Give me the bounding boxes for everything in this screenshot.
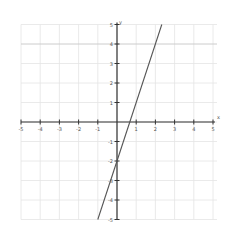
y-tick-label: 2 xyxy=(110,80,113,86)
x-tick-label: -4 xyxy=(38,126,43,132)
x-tick-label: -2 xyxy=(76,126,81,132)
x-tick-label: -1 xyxy=(95,126,100,132)
y-tick-label: -3 xyxy=(108,178,113,184)
y-tick-label: -2 xyxy=(108,158,113,164)
x-tick-label: 1 xyxy=(135,126,138,132)
x-tick-label: 5 xyxy=(211,126,214,132)
y-tick-label: -1 xyxy=(108,139,113,145)
y-tick-label: 1 xyxy=(110,100,113,106)
y-tick-label: 3 xyxy=(110,61,113,67)
tick-labels: xy-5-4-3-2-11234554321-1-2-3-4-5 xyxy=(19,19,221,223)
y-tick-label: -4 xyxy=(108,197,113,203)
x-tick-label: 3 xyxy=(173,126,176,132)
y-tick-label: 5 xyxy=(110,22,113,28)
y-tick-label: 4 xyxy=(110,41,113,47)
x-tick-label: 4 xyxy=(192,126,195,132)
x-tick-label: -5 xyxy=(19,126,24,132)
y-axis-label: y xyxy=(119,19,122,26)
axes xyxy=(21,23,215,220)
x-tick-label: 2 xyxy=(154,126,157,132)
coordinate-plane: xy-5-4-3-2-11234554321-1-2-3-4-5 xyxy=(0,0,230,236)
x-tick-label: -3 xyxy=(57,126,62,132)
y-tick-label: -5 xyxy=(108,217,113,223)
x-axis-label: x xyxy=(217,114,220,120)
